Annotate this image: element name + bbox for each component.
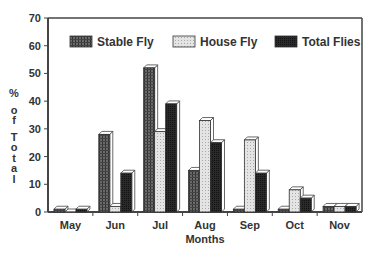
total-flies-bar [166,101,180,212]
stable-fly-bar [99,131,113,212]
total-flies-bar [300,195,314,212]
x-axis: MayJunJulAugSepOctNov [60,212,351,231]
legend-swatch [70,36,92,47]
legend-label: Stable Fly [97,35,154,49]
total-flies-bar [76,206,90,212]
y-tick-label: 40 [29,95,41,107]
x-tick-label: Sep [240,219,260,231]
total-flies-bar [255,170,269,212]
legend: Stable FlyHouse FlyTotal Flies [70,35,361,49]
y-tick-label: 60 [29,40,41,52]
x-tick-label: Jul [152,219,168,231]
bars [54,65,359,213]
y-axis: 010203040506070 [29,12,48,218]
y-tick-label: 0 [35,206,41,218]
total-flies-bar [211,140,225,212]
legend-swatch [173,36,195,47]
total-flies-bar [121,170,135,212]
legend-label: Total Flies [302,35,361,49]
legend-item: House Fly [173,35,258,49]
x-axis-title: Months [185,233,224,245]
legend-label: House Fly [200,35,258,49]
x-tick-label: Nov [329,219,351,231]
y-tick-label: 50 [29,67,41,79]
x-tick-label: May [60,219,82,231]
bar-chart: 010203040506070 MayJunJulAugSepOctNov %o… [0,0,375,255]
y-tick-label: 10 [29,178,41,190]
x-tick-label: Oct [286,219,305,231]
y-tick-label: 20 [29,151,41,163]
y-tick-label: 70 [29,12,41,24]
legend-item: Stable Fly [70,35,154,49]
total-flies-bar [345,203,359,212]
svg-text:%ofTotal: %ofTotal [9,87,19,185]
legend-item: Total Flies [275,35,361,49]
y-axis-title: %ofTotal [9,87,19,185]
y-tick-label: 30 [29,123,41,135]
x-tick-label: Jun [106,219,126,231]
x-tick-label: Aug [194,219,215,231]
legend-swatch [275,36,297,47]
